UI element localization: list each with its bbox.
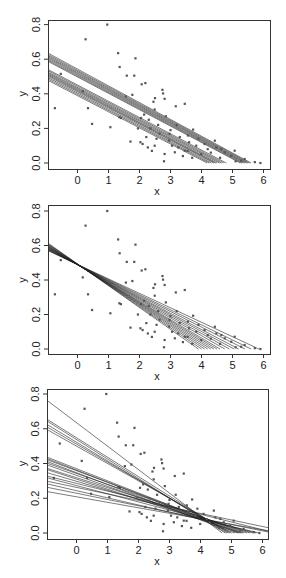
fit-line — [47, 70, 224, 163]
data-point — [175, 105, 177, 107]
data-point — [139, 141, 141, 143]
data-point — [81, 460, 83, 462]
data-point — [106, 24, 108, 26]
data-point — [210, 338, 212, 340]
data-point — [139, 327, 141, 329]
chart-panel-middle: 0123456x0.00.20.40.60.8y — [16, 203, 271, 382]
data-point — [177, 332, 179, 334]
plot-area — [47, 210, 262, 350]
data-point — [144, 82, 146, 84]
x-tick-label: 2 — [136, 174, 142, 186]
chart-panel-top: 0123456x0.00.20.40.60.8y — [16, 17, 271, 197]
data-point — [90, 493, 92, 495]
data-point — [157, 124, 159, 126]
data-point — [207, 334, 209, 336]
data-point — [148, 305, 150, 307]
data-point — [142, 483, 144, 485]
fit-line — [47, 72, 220, 163]
data-point — [184, 289, 186, 291]
data-point — [182, 341, 184, 343]
data-point — [109, 126, 111, 128]
data-point — [126, 261, 128, 263]
data-point — [155, 324, 157, 326]
data-point — [141, 513, 143, 515]
data-point — [143, 300, 145, 302]
y-tick-label: 0.2 — [30, 307, 42, 322]
data-point — [215, 146, 217, 148]
data-point — [243, 158, 245, 160]
plot-area — [47, 24, 262, 165]
data-point — [168, 319, 170, 321]
data-point — [164, 153, 166, 155]
data-point — [194, 515, 196, 517]
data-point — [84, 38, 86, 40]
data-point — [167, 509, 169, 511]
data-point — [147, 488, 149, 490]
data-point — [159, 319, 161, 321]
x-tick-label: 3 — [167, 174, 173, 186]
data-point — [170, 515, 172, 517]
data-point — [168, 133, 170, 135]
y-tick-label: 0.6 — [29, 421, 41, 436]
fit-line — [47, 61, 241, 163]
fit-line — [47, 250, 259, 349]
data-point — [253, 531, 255, 533]
x-tick-label: 5 — [228, 544, 234, 556]
data-point — [132, 444, 134, 446]
data-point — [164, 284, 166, 286]
data-point — [199, 523, 201, 525]
data-point — [214, 140, 216, 142]
data-point — [235, 346, 237, 348]
data-point — [218, 527, 220, 529]
data-point — [213, 509, 215, 511]
y-tick-label: 0.8 — [30, 203, 42, 218]
fit-line — [46, 461, 235, 533]
data-point — [164, 98, 166, 100]
data-point — [240, 346, 242, 348]
data-point — [151, 470, 153, 472]
x-tick-label: 0 — [74, 174, 80, 186]
data-point — [87, 293, 89, 295]
data-point — [175, 494, 177, 496]
data-point — [177, 146, 179, 148]
plot-area — [46, 393, 269, 534]
data-point — [60, 73, 62, 75]
data-point — [163, 346, 165, 348]
data-point — [139, 487, 141, 489]
data-point — [179, 136, 181, 138]
data-point — [191, 498, 193, 500]
data-point — [169, 129, 171, 131]
data-point — [197, 138, 199, 140]
data-point — [130, 463, 132, 465]
data-point — [200, 153, 202, 155]
data-point — [164, 485, 166, 487]
y-axis-title: y — [16, 460, 28, 466]
data-point — [254, 347, 256, 349]
y-tick-label: 0.0 — [29, 525, 41, 540]
fit-line — [46, 491, 269, 531]
data-point — [167, 503, 169, 505]
fit-line — [46, 429, 232, 533]
plot-frame — [48, 390, 269, 540]
data-point — [254, 161, 256, 163]
data-point — [125, 444, 127, 446]
data-point — [149, 127, 151, 129]
data-point — [145, 136, 147, 138]
data-point — [219, 343, 221, 345]
data-point — [174, 475, 176, 477]
data-point — [156, 494, 158, 496]
data-point — [230, 341, 232, 343]
y-tick-label: 0.2 — [29, 491, 41, 506]
data-point — [140, 303, 142, 305]
x-tick-label: 0 — [73, 544, 79, 556]
y-tick-label: 0.8 — [29, 386, 41, 401]
data-point — [141, 83, 143, 85]
data-point — [187, 511, 189, 513]
fit-line — [47, 58, 244, 163]
data-point — [224, 151, 226, 153]
data-point — [86, 477, 88, 479]
data-point — [137, 313, 139, 315]
fit-line — [47, 74, 216, 163]
x-tick-label: 4 — [197, 544, 203, 556]
data-point — [158, 502, 160, 504]
